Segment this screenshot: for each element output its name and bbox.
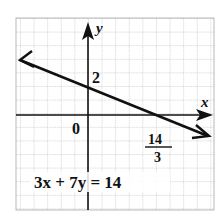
y-intercept-label: 2 — [92, 69, 100, 86]
x-axis-label: x — [200, 94, 209, 110]
x-intercept-numerator: 14 — [148, 132, 162, 147]
origin-label: 0 — [72, 120, 80, 137]
y-axis-label: y — [94, 20, 103, 36]
x-intercept-denominator: 3 — [154, 150, 161, 165]
equation-label: 3x + 7y = 14 — [34, 173, 122, 192]
coordinate-graph: y x 2 0 14 3 3x + 7y = 14 — [0, 0, 221, 211]
